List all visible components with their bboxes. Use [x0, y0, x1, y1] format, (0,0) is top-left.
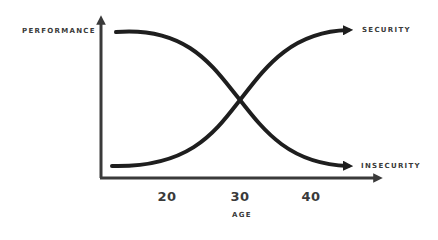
x-tick-40: 40	[301, 189, 320, 204]
security-label: SECURITY	[362, 26, 411, 34]
insecurity-label: INSECURITY	[361, 162, 421, 170]
x-tick-20: 20	[157, 189, 176, 204]
x-axis-label: AGE	[232, 211, 252, 219]
x-tick-30: 30	[230, 189, 249, 204]
security-curve	[112, 30, 348, 166]
y-axis-label: PERFORMANCE	[22, 27, 96, 35]
insecurity-curve	[116, 31, 348, 166]
